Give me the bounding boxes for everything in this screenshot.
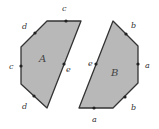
shape-label-b: B <box>110 67 118 78</box>
edge-label-a-topleft: d <box>22 22 27 31</box>
edge-label-a-bottom: d <box>22 102 27 111</box>
polygon-a <box>21 21 81 108</box>
edge-midpoint-b-topright <box>124 32 127 35</box>
edge-label-a-right: e <box>66 65 71 74</box>
edge-midpoint-b-right <box>136 62 139 65</box>
shape-label-a: A <box>38 53 46 64</box>
edge-label-b-left: e <box>88 59 93 68</box>
edge-midpoint-b-left <box>94 62 97 65</box>
edge-midpoint-a-topleft <box>33 31 36 34</box>
edge-label-b-bottomright: b <box>131 103 136 112</box>
edge-label-a-left: c <box>9 62 14 71</box>
edge-midpoint-a-left <box>19 64 22 67</box>
edge-label-b-topright: b <box>131 21 136 30</box>
edge-label-b-bottom: a <box>92 115 97 124</box>
edge-label-b-right: a <box>145 61 150 70</box>
edge-label-a-top: c <box>62 4 67 13</box>
edge-midpoint-a-bottom <box>32 94 35 97</box>
edge-midpoint-a-top <box>64 19 67 22</box>
edge-midpoint-b-bottom <box>92 106 95 109</box>
polygon-diagram: A c e d c d B b a b a e <box>0 0 159 129</box>
edge-midpoint-b-bottomright <box>123 95 126 98</box>
